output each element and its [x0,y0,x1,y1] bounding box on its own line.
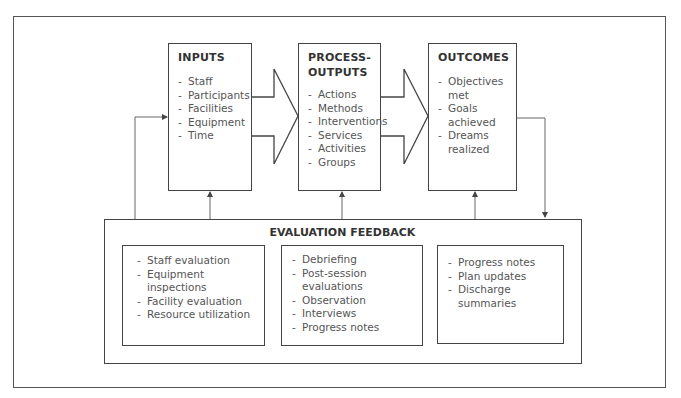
list-item: Staff evaluation [137,254,264,268]
list-item: Equipment inspections [137,268,264,295]
list-item: Facilities [178,102,251,116]
list-item: Time [178,129,251,143]
list-item: Debriefing [292,253,422,267]
feedback-list: Debriefing Post-session evaluations Obse… [292,253,422,334]
outcomes-box: OUTCOMES Objectives met Goals achieved D… [428,43,517,191]
list-item: Resource utilization [137,308,264,322]
list-item: Dreams realized [438,129,504,156]
list-item: Post-session evaluations [292,267,422,294]
outcomes-title: OUTCOMES [438,50,512,65]
feedback-group-outcomes: Progress notes Plan updates Discharge su… [437,245,564,344]
list-item: Interventions [308,115,380,129]
feedback-group-resources: Staff evaluation Equipment inspections F… [122,245,265,346]
list-item: Participants [178,89,251,103]
arrow-inputs-to-process [251,69,298,164]
outcomes-list: Objectives met Goals achieved Dreams rea… [438,75,504,156]
process-outputs-box: PROCESS- OUTPUTS Actions Methods Interve… [298,43,381,191]
feedback-group-process: Debriefing Post-session evaluations Obse… [281,245,423,346]
process-outputs-title-line1: PROCESS- [308,50,380,65]
list-item: Goals achieved [438,102,504,129]
list-item: Equipment [178,116,251,130]
inputs-title: INPUTS [178,50,251,65]
evaluation-feedback-title: EVALUATION FEEDBACK [104,226,581,239]
list-item: Observation [292,294,422,308]
outcomes-to-feedback-line [516,118,545,217]
list-item: Plan updates [448,270,563,284]
feedback-to-inputs-line [135,117,167,219]
list-item: Services [308,129,380,143]
list-item: Actions [308,88,380,102]
list-item: Activities [308,142,380,156]
list-item: Facility evaluation [137,295,264,309]
list-item: Groups [308,156,380,170]
process-outputs-title-line2: OUTPUTS [308,65,380,80]
list-item: Discharge summaries [448,283,563,310]
list-item: Interviews [292,307,422,321]
list-item: Progress notes [292,321,422,335]
feedback-list: Staff evaluation Equipment inspections F… [137,254,264,322]
list-item: Progress notes [448,256,563,270]
list-item: Staff [178,75,251,89]
inputs-box: INPUTS Staff Participants Facilities Equ… [168,43,252,191]
process-outputs-list: Actions Methods Interventions Services A… [308,88,380,169]
inputs-list: Staff Participants Facilities Equipment … [178,75,251,143]
list-item: Objectives met [438,75,504,102]
feedback-list: Progress notes Plan updates Discharge su… [448,256,563,310]
list-item: Methods [308,102,380,116]
